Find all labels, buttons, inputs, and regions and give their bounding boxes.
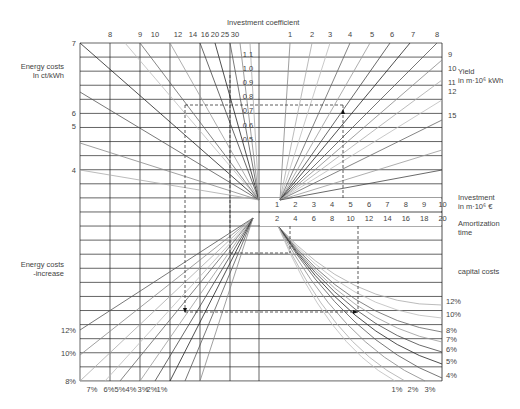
svg-text:2: 2 [293, 200, 297, 209]
svg-text:0.7: 0.7 [243, 106, 253, 115]
svg-text:8: 8 [435, 30, 439, 39]
svg-text:4: 4 [72, 166, 76, 175]
svg-text:6: 6 [72, 109, 76, 118]
svg-text:6%: 6% [446, 345, 457, 354]
svg-text:7: 7 [411, 30, 415, 39]
nomogram-chart: 89101214162025301234567876541.11.00.90.8… [0, 0, 520, 409]
capital-costs-label: capital costs [458, 267, 499, 276]
example-path [183, 75, 358, 314]
svg-text:1: 1 [288, 30, 292, 39]
svg-text:12%: 12% [446, 297, 461, 306]
svg-text:12: 12 [365, 214, 373, 223]
svg-text:0.5: 0.5 [243, 135, 253, 144]
svg-text:8%: 8% [446, 326, 457, 335]
svg-text:11: 11 [448, 78, 456, 87]
svg-text:7%: 7% [446, 335, 457, 344]
svg-text:6%: 6% [104, 385, 115, 394]
svg-text:5%: 5% [115, 385, 126, 394]
svg-text:10: 10 [448, 64, 456, 73]
svg-text:5%: 5% [446, 357, 457, 366]
svg-text:12%: 12% [61, 326, 76, 335]
svg-text:1.1: 1.1 [243, 50, 253, 59]
svg-text:9: 9 [138, 30, 142, 39]
svg-text:3: 3 [312, 200, 316, 209]
svg-text:10%: 10% [446, 310, 461, 319]
svg-text:30: 30 [231, 30, 239, 39]
svg-text:8: 8 [108, 30, 112, 39]
svg-text:14: 14 [189, 30, 197, 39]
svg-text:20: 20 [211, 30, 219, 39]
svg-text:4%: 4% [446, 371, 457, 380]
energy-costs-unit: In ct/kWh [18, 71, 64, 80]
svg-text:18: 18 [420, 214, 428, 223]
svg-text:25: 25 [221, 30, 229, 39]
svg-text:9: 9 [448, 50, 452, 59]
svg-text:4: 4 [330, 200, 334, 209]
svg-text:7%: 7% [87, 385, 98, 394]
svg-text:15: 15 [448, 111, 456, 120]
svg-text:10: 10 [438, 200, 446, 209]
svg-text:10: 10 [151, 30, 159, 39]
svg-text:2: 2 [275, 214, 279, 223]
energy-costs-label: Energy costs [18, 62, 64, 71]
svg-text:5: 5 [370, 30, 374, 39]
svg-text:10%: 10% [61, 349, 76, 358]
yield-unit: in m·10⁶ kWh [458, 76, 503, 85]
svg-text:2: 2 [310, 30, 314, 39]
svg-text:6: 6 [390, 30, 394, 39]
svg-text:16: 16 [201, 30, 209, 39]
svg-text:16: 16 [402, 214, 410, 223]
svg-text:3%: 3% [425, 385, 436, 394]
svg-text:8: 8 [330, 214, 334, 223]
svg-text:7: 7 [72, 39, 76, 48]
svg-text:8%: 8% [65, 377, 76, 386]
svg-text:7: 7 [385, 200, 389, 209]
svg-text:12: 12 [174, 30, 182, 39]
svg-text:20: 20 [438, 214, 446, 223]
investment-label: Investment [458, 193, 495, 202]
svg-text:0.6: 0.6 [243, 121, 253, 130]
svg-text:2%: 2% [408, 385, 419, 394]
svg-text:14: 14 [383, 214, 391, 223]
svg-text:5: 5 [349, 200, 353, 209]
svg-text:8: 8 [404, 200, 408, 209]
amortization-label2: time [458, 228, 472, 237]
svg-text:10: 10 [346, 214, 354, 223]
svg-text:1: 1 [275, 200, 279, 209]
amortization-label: Amortization [458, 219, 500, 228]
svg-text:1%: 1% [392, 385, 403, 394]
svg-text:4%: 4% [126, 385, 137, 394]
svg-text:6: 6 [367, 200, 371, 209]
svg-text:1.0: 1.0 [243, 64, 253, 73]
svg-text:1%: 1% [157, 385, 168, 394]
svg-text:4: 4 [348, 30, 352, 39]
energy-increase-label2: -increase [10, 269, 64, 278]
svg-text:6: 6 [312, 214, 316, 223]
energy-increase-label: Energy costs [10, 260, 64, 269]
svg-text:12: 12 [448, 87, 456, 96]
investment-unit: in m·10⁶ € [458, 202, 492, 211]
svg-text:5: 5 [72, 122, 76, 131]
svg-text:9: 9 [422, 200, 426, 209]
svg-text:4: 4 [293, 214, 297, 223]
yield-label: Yield [458, 67, 474, 76]
svg-text:0.8: 0.8 [243, 92, 253, 101]
chart-title: Investment coefficient [227, 18, 299, 27]
svg-text:0.9: 0.9 [243, 78, 253, 87]
svg-text:3: 3 [328, 30, 332, 39]
